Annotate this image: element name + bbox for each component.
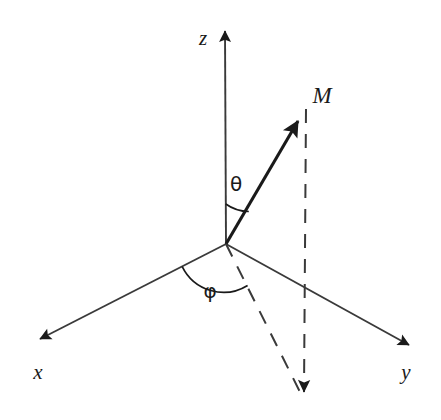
x-axis-label: x	[33, 362, 42, 383]
x-axis-line	[40, 244, 226, 339]
vertical-projection-dashed-line	[304, 109, 306, 392]
y-axis-line	[226, 244, 409, 345]
magnetization-vector-label: M	[312, 84, 331, 107]
polar-angle-label: θ	[230, 174, 242, 194]
z-axis-label: z	[199, 28, 207, 49]
diagram-canvas	[0, 0, 441, 420]
y-axis-label: y	[401, 362, 410, 383]
azimuthal-projection-dashed-line	[226, 244, 303, 398]
z-axis-line	[225, 31, 226, 244]
azimuthal-angle-label: φ	[203, 281, 216, 301]
spherical-coordinate-diagram: z x y M θ φ	[0, 0, 441, 420]
